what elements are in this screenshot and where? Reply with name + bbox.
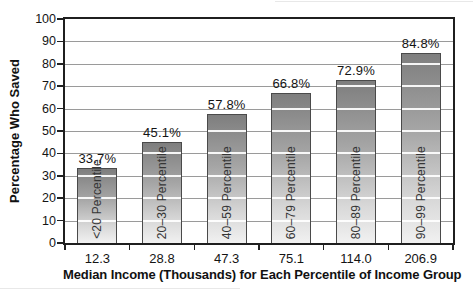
bar-percentile-label-text: 60–79 Percentile	[284, 146, 298, 239]
bar: 20–30 Percentile	[142, 142, 182, 243]
bar-gridline-knockout	[402, 108, 440, 110]
bar-gridline-knockout	[337, 130, 375, 132]
bar-gridline-knockout	[337, 108, 375, 110]
x-axis-tick	[64, 245, 66, 250]
x-tick-label: 12.3	[65, 251, 130, 266]
scan-artifact-top	[275, 1, 473, 2]
y-tick-label: 60	[18, 102, 56, 116]
bar-percentile-label-text: <20 Percentile	[90, 159, 104, 239]
scan-artifact-bottom	[0, 288, 240, 289]
x-axis-tick	[129, 245, 131, 250]
x-tick-label: 114.0	[324, 251, 389, 266]
y-tick-label: 90	[18, 34, 56, 48]
y-axis-tick	[57, 130, 63, 132]
bar-percentile-label: 90–99 Percentile	[414, 146, 428, 239]
bar: 60–79 Percentile	[271, 93, 311, 243]
bar-percentile-label: 60–79 Percentile	[284, 146, 298, 239]
x-tick-label: 206.9	[388, 251, 453, 266]
bar-percentile-label: 40–59 Percentile	[220, 146, 234, 239]
bar-value-label: 72.9%	[324, 63, 389, 78]
x-tick-label: 47.3	[194, 251, 259, 266]
y-tick-label: 100	[18, 12, 56, 26]
gridline	[65, 176, 453, 177]
y-axis-tick	[57, 63, 63, 65]
x-axis-tick	[258, 245, 260, 250]
y-tick-label: 0	[18, 236, 56, 250]
y-tick-label: 50	[18, 124, 56, 138]
bar: 40–59 Percentile	[207, 114, 247, 243]
y-axis-tick	[57, 220, 63, 222]
gridline	[65, 198, 453, 199]
bar: 80–89 Percentile	[336, 80, 376, 243]
gridline	[65, 64, 453, 65]
y-axis-tick	[57, 85, 63, 87]
bar-percentile-label: 20–30 Percentile	[155, 146, 169, 239]
y-axis-tick	[57, 242, 63, 244]
bar-gridline-knockout	[402, 63, 440, 65]
plot-area: <20 Percentile20–30 Percentile40–59 Perc…	[63, 17, 455, 245]
bar-percentile-label: <20 Percentile	[90, 159, 104, 239]
x-axis-tick	[323, 245, 325, 250]
bar-percentile-label: 80–89 Percentile	[349, 146, 363, 239]
y-axis-tick	[57, 41, 63, 43]
bar-gridline-knockout	[402, 130, 440, 132]
x-axis-tick	[194, 245, 196, 250]
y-axis-tick	[57, 175, 63, 177]
bar: 90–99 Percentile	[401, 53, 441, 243]
bar-percentile-label-text: 40–59 Percentile	[220, 146, 234, 239]
bar-value-label: 57.8%	[194, 97, 259, 112]
y-axis-tick	[57, 153, 63, 155]
y-axis-tick	[57, 197, 63, 199]
gridline	[65, 131, 453, 132]
bar: <20 Percentile	[77, 168, 117, 243]
x-axis-tick	[452, 245, 454, 250]
y-tick-label: 30	[18, 169, 56, 183]
bar-percentile-label-text: 90–99 Percentile	[414, 146, 428, 239]
bar-percentile-label-text: 80–89 Percentile	[349, 146, 363, 239]
y-tick-label: 20	[18, 191, 56, 205]
bar-gridline-knockout	[208, 130, 246, 132]
bar-gridline-knockout	[272, 108, 310, 110]
x-axis-title: Median Income (Thousands) for Each Perce…	[63, 267, 455, 282]
x-axis-tick	[388, 245, 390, 250]
y-axis-tick	[57, 18, 63, 20]
bar-gridline-knockout	[402, 85, 440, 87]
bar-value-label: 66.8%	[259, 76, 324, 91]
y-tick-label: 80	[18, 57, 56, 71]
bar-chart-figure: Percentage Who Saved <20 Percentile20–30…	[0, 0, 473, 291]
x-tick-label: 75.1	[259, 251, 324, 266]
y-axis-tick	[57, 108, 63, 110]
y-tick-label: 70	[18, 79, 56, 93]
x-tick-label: 28.8	[130, 251, 195, 266]
bar-value-label: 45.1%	[130, 125, 195, 140]
y-tick-label: 10	[18, 214, 56, 228]
bar-value-label: 84.8%	[388, 36, 453, 51]
gridline	[65, 109, 453, 110]
bar-gridline-knockout	[337, 85, 375, 87]
gridline	[65, 221, 453, 222]
bar-value-label: 33.7%	[65, 151, 130, 166]
bar-gridline-knockout	[272, 130, 310, 132]
bar-percentile-label-text: 20–30 Percentile	[155, 146, 169, 239]
y-tick-label: 40	[18, 146, 56, 160]
